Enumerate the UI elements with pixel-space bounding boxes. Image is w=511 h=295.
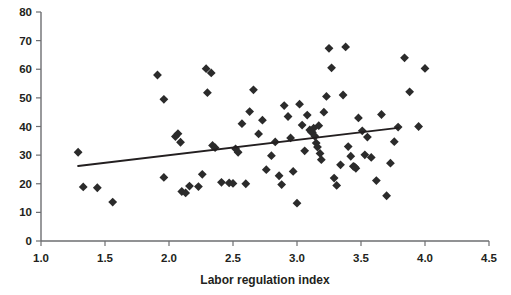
data-point-marker xyxy=(194,182,203,191)
data-point-marker xyxy=(336,160,345,169)
data-point-marker xyxy=(74,148,83,157)
x-axis-tick-labels: 1.01.52.02.53.03.54.04.5 xyxy=(33,252,498,264)
data-point-marker xyxy=(319,108,328,117)
data-point-marker xyxy=(400,53,409,62)
data-point-marker xyxy=(295,100,304,109)
data-point-marker xyxy=(386,159,395,168)
data-point-marker xyxy=(258,116,267,125)
x-tick-label: 3.0 xyxy=(289,252,305,264)
x-tick-label: 3.5 xyxy=(353,252,370,264)
data-point-marker xyxy=(198,170,207,179)
x-tick-label: 2.0 xyxy=(161,252,177,264)
x-tick-label: 1.5 xyxy=(97,252,114,264)
y-tick-label: 40 xyxy=(19,121,32,133)
x-axis-title: Labor regulation index xyxy=(200,273,330,287)
x-tick-label: 1.0 xyxy=(33,252,49,264)
data-point-marker xyxy=(414,122,423,131)
y-tick-label: 20 xyxy=(19,178,32,190)
data-point-marker xyxy=(341,43,350,52)
x-axis-ticks xyxy=(41,241,489,246)
data-point-marker xyxy=(317,155,326,164)
y-tick-label: 30 xyxy=(19,149,32,161)
data-point-marker xyxy=(372,176,381,185)
data-points xyxy=(74,43,430,208)
data-point-marker xyxy=(363,133,372,142)
data-point-marker xyxy=(203,88,212,97)
data-point-marker xyxy=(325,44,334,53)
data-point-marker xyxy=(275,171,284,180)
data-point-marker xyxy=(245,107,254,116)
data-point-marker xyxy=(327,63,336,72)
plot-canvas: 01020304050607080 1.01.52.02.53.03.54.04… xyxy=(0,0,511,295)
x-tick-label: 4.0 xyxy=(417,252,433,264)
data-point-marker xyxy=(217,178,226,187)
data-point-marker xyxy=(153,71,162,80)
data-point-marker xyxy=(159,173,168,182)
data-point-marker xyxy=(298,121,307,130)
data-point-marker xyxy=(185,182,194,191)
y-tick-label: 60 xyxy=(19,63,32,75)
data-point-marker xyxy=(280,101,289,110)
data-point-marker xyxy=(300,146,309,155)
data-point-marker xyxy=(330,174,339,183)
data-point-marker xyxy=(284,112,293,121)
data-point-marker xyxy=(377,110,386,119)
data-point-marker xyxy=(405,87,414,96)
y-axis-tick-labels: 01020304050607080 xyxy=(19,6,32,247)
data-point-marker xyxy=(332,181,341,190)
data-point-marker xyxy=(421,64,430,73)
data-point-marker xyxy=(93,183,102,192)
data-point-marker xyxy=(254,130,263,139)
data-point-marker xyxy=(358,126,367,135)
y-axis-ticks xyxy=(36,12,41,241)
data-point-marker xyxy=(303,111,312,120)
y-tick-label: 70 xyxy=(19,35,32,47)
data-point-marker xyxy=(390,137,399,146)
data-point-marker xyxy=(79,182,88,191)
data-point-marker xyxy=(322,92,331,101)
x-tick-label: 4.5 xyxy=(481,252,498,264)
scatter-chart: 01020304050607080 1.01.52.02.53.03.54.04… xyxy=(0,0,511,295)
x-tick-label: 2.5 xyxy=(225,252,242,264)
y-tick-label: 50 xyxy=(19,92,32,104)
data-point-marker xyxy=(249,85,258,94)
data-point-marker xyxy=(293,199,302,208)
data-point-marker xyxy=(339,91,348,100)
data-point-marker xyxy=(159,95,168,104)
data-point-marker xyxy=(238,119,247,128)
data-point-marker xyxy=(382,191,391,200)
y-tick-label: 0 xyxy=(26,235,32,247)
y-tick-label: 80 xyxy=(19,6,32,18)
data-point-marker xyxy=(262,165,271,174)
data-point-marker xyxy=(108,198,117,207)
data-point-marker xyxy=(289,167,298,176)
data-point-marker xyxy=(277,180,286,189)
data-point-marker xyxy=(267,151,276,160)
y-tick-label: 10 xyxy=(19,206,32,218)
data-point-marker xyxy=(344,142,353,151)
data-point-marker xyxy=(354,114,363,123)
data-point-marker xyxy=(176,138,185,147)
data-point-marker xyxy=(346,152,355,161)
data-point-marker xyxy=(241,179,250,188)
